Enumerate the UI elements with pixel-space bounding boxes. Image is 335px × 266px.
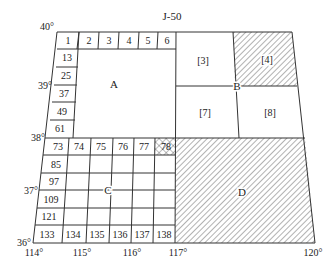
lon-label-115: 115° [73,247,92,258]
cell-134: 134 [66,229,81,240]
region-c-label: C [104,184,111,196]
lat-label-40: 40° [40,21,54,32]
cell-97: 97 [49,176,59,187]
cell-4: 4 [127,35,132,46]
cell-25: 25 [61,70,71,81]
lat-label-37: 37° [24,185,38,196]
cell-74: 74 [74,141,84,152]
region-d-label: D [238,186,246,198]
map-sheet-diagram: J-50 40° 39° 38° 37° 36° 114° 115° 116° … [0,0,335,266]
region-a-label: A [110,78,118,90]
cell-1: 1 [66,35,71,46]
cell-3: 3 [107,35,112,46]
cell-13: 13 [62,52,72,63]
subregion-3-label: [3] [197,55,209,66]
subregion-8-label: [8] [264,107,276,118]
subregion-7-label: [7] [199,107,211,118]
cell-109: 109 [44,194,59,205]
cell-49: 49 [57,106,67,117]
lat-label-38: 38° [31,132,45,143]
sheet-title: J-50 [163,10,182,22]
lon-label-114: 114° [25,247,44,258]
cell-76: 76 [118,141,128,152]
cell-85: 85 [51,159,61,170]
lat-label-39: 39° [38,80,52,91]
cell-135: 135 [90,229,105,240]
subregion-4-label: [4] [261,54,273,65]
cell-75: 75 [96,141,106,152]
cell-6: 6 [165,35,170,46]
cell-5: 5 [146,35,151,46]
cell-138: 138 [157,229,172,240]
lon-label-116: 116° [123,247,142,258]
cell-77: 77 [139,141,149,152]
cell-136: 136 [113,229,128,240]
cell-61: 61 [55,123,65,134]
cell-78: 78 [161,141,171,152]
lon-label-120: 120° [304,247,323,258]
cell-37: 37 [59,88,69,99]
cell-73: 73 [53,141,63,152]
cell-2: 2 [87,35,92,46]
cell-137: 137 [135,229,150,240]
cell-121: 121 [42,211,57,222]
cell-133: 133 [40,229,55,240]
region-b-label: B [233,80,240,92]
lon-label-117: 117° [169,247,188,258]
